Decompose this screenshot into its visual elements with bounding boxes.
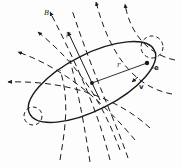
dipole-diagram: B μ r v -e	[0, 0, 182, 168]
field-line	[38, 32, 120, 150]
label-mu: μ	[66, 31, 71, 38]
label-r: r	[117, 62, 120, 69]
field-line	[72, 10, 128, 158]
diagram-canvas	[0, 0, 182, 168]
velocity-arrow	[132, 77, 138, 82]
electron-dot	[145, 61, 149, 65]
label-v: v	[139, 84, 144, 91]
label-charge: -e	[151, 65, 159, 72]
field-loop-lower	[24, 107, 42, 125]
label-B: B	[44, 10, 49, 17]
field-line	[8, 82, 150, 128]
field-line	[60, 70, 66, 160]
field-line	[125, 4, 175, 60]
nucleus-dot	[90, 81, 94, 85]
